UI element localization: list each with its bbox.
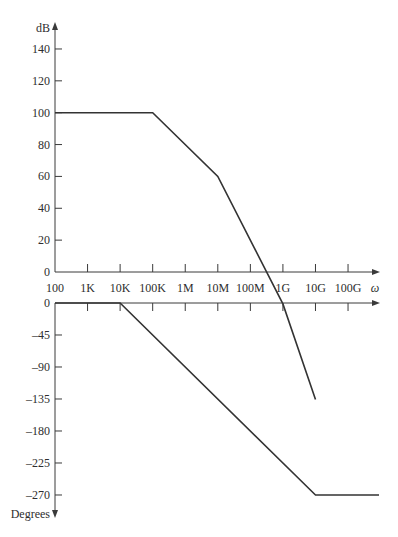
db-tick-label: 140: [32, 42, 50, 56]
db-tick-label: 20: [38, 233, 50, 247]
x-tick-label: 10K: [110, 281, 131, 295]
arrow-down-icon: [52, 510, 58, 518]
bode-plot: 1001K10K100K1M10M100M1G10G100G0204060801…: [0, 0, 398, 537]
db-tick-label: 120: [32, 74, 50, 88]
arrow-up-icon: [52, 22, 58, 30]
magnitude-plot: 1001K10K100K1M10M100M1G10G100G0204060801…: [32, 22, 380, 399]
degree-tick-label: –45: [31, 328, 50, 342]
degree-tick-label: –225: [25, 456, 50, 470]
phase-plot: 0–45–90–135–180–225–270: [25, 296, 380, 518]
arrow-right-icon: [372, 269, 380, 275]
omega-axis-label: ω: [371, 281, 379, 295]
magnitude-curve: [55, 113, 316, 400]
x-tick-label: 1M: [177, 281, 194, 295]
db-tick-label: 40: [38, 201, 50, 215]
x-tick-label: 10M: [206, 281, 229, 295]
degree-tick-label: –135: [25, 392, 50, 406]
phase-curve: [55, 303, 379, 495]
x-tick-label: 100G: [335, 281, 362, 295]
db-axis-label: dB: [36, 21, 50, 35]
degree-tick-label: 0: [44, 296, 50, 310]
x-tick-label: 100: [46, 281, 64, 295]
x-tick-label: 1K: [80, 281, 95, 295]
degree-tick-label: –90: [31, 360, 50, 374]
db-tick-label: 80: [38, 138, 50, 152]
x-tick-label: 10G: [305, 281, 326, 295]
db-tick-label: 60: [38, 169, 50, 183]
x-tick-label: 100K: [139, 281, 166, 295]
degrees-axis-label: Degrees: [11, 507, 51, 521]
db-tick-label: 0: [44, 265, 50, 279]
arrow-right-icon: [372, 300, 380, 306]
degree-tick-label: –180: [25, 424, 50, 438]
x-tick-label: 100M: [236, 281, 265, 295]
degree-tick-label: –270: [25, 488, 50, 502]
db-tick-label: 100: [32, 106, 50, 120]
